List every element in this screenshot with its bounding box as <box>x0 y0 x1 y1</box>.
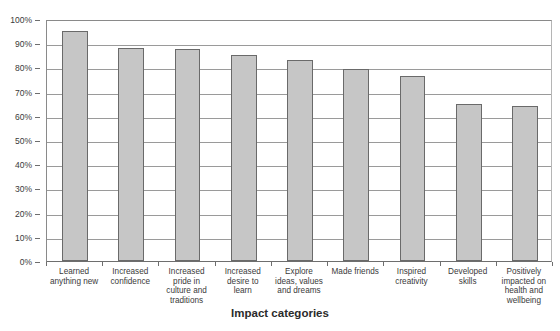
bar <box>400 76 426 261</box>
x-axis-category-label-line: Made friends <box>327 267 383 277</box>
x-axis-category-label: Positivelyimpacted onhealth andwellbeing <box>496 267 552 305</box>
x-axis-category-label-line: Increased <box>215 267 271 277</box>
x-axis-tick-mark <box>46 262 47 266</box>
y-axis: 100%90%80%70%60%50%40%30%20%10%0% <box>0 0 46 331</box>
bar <box>287 60 313 261</box>
bar <box>456 104 482 261</box>
x-axis-category-label: Developedskills <box>440 267 496 286</box>
x-axis-category-label-line: health and <box>496 286 552 296</box>
x-axis-category-label-line: Explore <box>271 267 327 277</box>
x-axis-tick-mark <box>271 262 272 266</box>
x-axis-category-label-line: and dreams <box>271 286 327 296</box>
x-axis-category-label: Made friends <box>327 267 383 277</box>
x-axis-tick-mark <box>383 262 384 266</box>
y-axis-tick-mark <box>35 20 40 21</box>
x-axis-category-label-line: pride in <box>158 277 214 287</box>
y-axis-tick-mark <box>35 141 40 142</box>
y-axis-tick-mark <box>35 262 40 263</box>
x-axis-category-label: Increaseddesire tolearn <box>215 267 271 296</box>
x-axis-category-label: Learnedanything new <box>46 267 102 286</box>
x-axis-category-label-line: creativity <box>383 277 439 287</box>
x-axis-category-label-line: ideas, values <box>271 277 327 287</box>
y-axis-tick-mark <box>35 189 40 190</box>
x-axis-category-label-line: Positively <box>496 267 552 277</box>
x-axis-category-label-line: Increased <box>102 267 158 277</box>
x-axis-category-label-line: wellbeing <box>496 296 552 306</box>
y-axis-tick-mark <box>35 44 40 45</box>
y-axis-tick-label: 80% <box>15 64 32 73</box>
y-axis-tick-label: 20% <box>15 209 32 218</box>
y-axis-tick-label: 100% <box>10 16 32 25</box>
x-axis-category-label-line: confidence <box>102 277 158 287</box>
gridline <box>47 45 551 46</box>
y-axis-tick-mark <box>35 214 40 215</box>
y-axis-tick-label: 0% <box>20 258 32 267</box>
y-axis-tick-label: 70% <box>15 88 32 97</box>
y-axis-tick-label: 60% <box>15 113 32 122</box>
x-axis-category-label-line: skills <box>440 277 496 287</box>
y-axis-tick-mark <box>35 93 40 94</box>
x-axis-tick-mark <box>102 262 103 266</box>
y-axis-tick-label: 50% <box>15 137 32 146</box>
y-axis-tick-label: 90% <box>15 40 32 49</box>
y-axis-tick-mark <box>35 117 40 118</box>
x-axis-category-label: Increasedpride inculture andtraditions <box>158 267 214 305</box>
bar <box>118 48 144 261</box>
x-axis-category-label-line: learn <box>215 286 271 296</box>
x-axis-category-label-line: Learned <box>46 267 102 277</box>
x-axis-category-label: Increasedconfidence <box>102 267 158 286</box>
bar-chart: 100%90%80%70%60%50%40%30%20%10%0% Learne… <box>0 0 560 331</box>
x-axis-tick-mark <box>496 262 497 266</box>
y-axis-tick-mark <box>35 165 40 166</box>
bar <box>231 55 257 261</box>
x-axis-category-label: Inspiredcreativity <box>383 267 439 286</box>
y-axis-tick-label: 40% <box>15 161 32 170</box>
x-axis-title: Impact categories <box>0 307 560 319</box>
x-axis-category-label: Exploreideas, valuesand dreams <box>271 267 327 296</box>
x-axis-tick-mark <box>552 262 553 266</box>
x-axis-category-label-line: Developed <box>440 267 496 277</box>
x-axis-tick-mark <box>158 262 159 266</box>
x-axis-category-label-line: culture and <box>158 286 214 296</box>
bar <box>62 31 88 261</box>
x-axis-category-label-line: Increased <box>158 267 214 277</box>
x-axis-category-label-line: desire to <box>215 277 271 287</box>
x-axis-tick-mark <box>440 262 441 266</box>
x-axis-tick-mark <box>327 262 328 266</box>
y-axis-tick-mark <box>35 238 40 239</box>
y-axis-tick-mark <box>35 68 40 69</box>
x-axis-tick-mark <box>215 262 216 266</box>
x-axis-category-label-line: traditions <box>158 296 214 306</box>
bar <box>175 49 201 261</box>
y-axis-tick-label: 30% <box>15 185 32 194</box>
bar <box>343 69 369 261</box>
y-axis-tick-label: 10% <box>15 234 32 243</box>
x-axis-category-label-line: Inspired <box>383 267 439 277</box>
plot-area <box>46 20 552 262</box>
x-axis-category-label-line: anything new <box>46 277 102 287</box>
x-axis-category-labels: Learnedanything newIncreasedconfidenceIn… <box>46 265 552 313</box>
x-axis-category-label-line: impacted on <box>496 277 552 287</box>
bar <box>512 106 538 261</box>
